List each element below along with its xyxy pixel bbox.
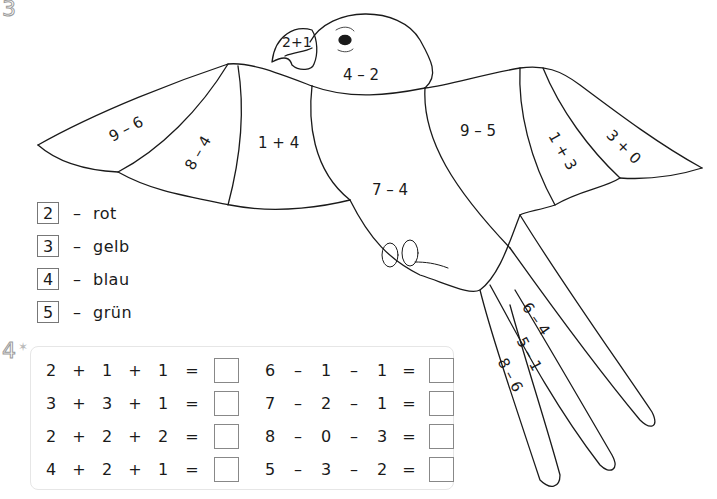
legend-color-name: grün: [93, 303, 132, 322]
operand: 3: [44, 394, 58, 413]
operand: 3: [100, 394, 114, 413]
operand: 3: [319, 460, 333, 479]
legend-number-box: 3: [37, 235, 59, 257]
operator: –: [333, 427, 375, 446]
equation-row: 5 – 3 – 2 =: [263, 456, 454, 482]
equals-sign: =: [170, 361, 214, 380]
operator: –: [277, 460, 319, 479]
operand: 1: [375, 361, 389, 380]
legend-color-name: gelb: [93, 237, 130, 256]
legend-dash: –: [73, 270, 81, 289]
operand: 1: [375, 394, 389, 413]
operator: +: [114, 361, 156, 380]
equals-sign: =: [170, 460, 214, 479]
legend-color-name: rot: [93, 204, 117, 223]
operand: 2: [156, 427, 170, 446]
region-label-beak: 2+1: [282, 34, 312, 50]
operand: 1: [100, 361, 114, 380]
operator: +: [58, 361, 100, 380]
region-label-head: 4 – 2: [343, 66, 379, 84]
operator: –: [277, 361, 319, 380]
equals-sign: =: [170, 427, 214, 446]
answer-box[interactable]: [214, 358, 239, 383]
operand: 3: [375, 427, 389, 446]
equation-row: 7 – 2 – 1 =: [263, 390, 454, 416]
answer-box[interactable]: [214, 424, 239, 449]
operand: 2: [100, 460, 114, 479]
operand: 8: [263, 427, 277, 446]
operand: 1: [156, 394, 170, 413]
equals-sign: =: [389, 394, 429, 413]
left-wing-top: [38, 64, 312, 145]
equation-row: 4 + 2 + 1 =: [44, 456, 239, 482]
feet-icon: [382, 240, 448, 268]
equals-sign: =: [389, 427, 429, 446]
operand: 0: [319, 427, 333, 446]
operator: +: [58, 427, 100, 446]
equation-row: 6 – 1 – 1 =: [263, 357, 454, 383]
operand: 7: [263, 394, 277, 413]
operand: 6: [263, 361, 277, 380]
operator: +: [114, 427, 156, 446]
operator: +: [58, 394, 100, 413]
legend-color-name: blau: [93, 270, 130, 289]
equation-row: 2 + 2 + 2 =: [44, 423, 239, 449]
legend-number-box: 4: [37, 268, 59, 290]
legend-dash: –: [73, 204, 81, 223]
region-label-left-wing-inner: 1 + 4: [258, 134, 299, 152]
operator: –: [333, 361, 375, 380]
operator: –: [333, 460, 375, 479]
answer-box[interactable]: [214, 391, 239, 416]
legend-row: 5 – grün: [37, 299, 132, 325]
operand: 2: [44, 427, 58, 446]
operand: 1: [156, 361, 170, 380]
answer-box[interactable]: [429, 358, 454, 383]
operand: 2: [375, 460, 389, 479]
equation-row: 8 – 0 – 3 =: [263, 423, 454, 449]
legend-row: 2 – rot: [37, 200, 117, 226]
operand: 5: [263, 460, 277, 479]
operand: 1: [156, 460, 170, 479]
legend-dash: –: [73, 303, 81, 322]
legend-number-box: 2: [37, 202, 59, 224]
body-outline: [350, 200, 520, 291]
equals-sign: =: [389, 460, 429, 479]
operator: –: [277, 427, 319, 446]
answer-box[interactable]: [429, 391, 454, 416]
operator: +: [114, 460, 156, 479]
region-label-right-wing-inner: 9 – 5: [460, 122, 496, 140]
operator: –: [333, 394, 375, 413]
equals-sign: =: [170, 394, 214, 413]
equals-sign: =: [389, 361, 429, 380]
operand: 1: [319, 361, 333, 380]
operator: +: [114, 394, 156, 413]
legend-dash: –: [73, 237, 81, 256]
operand: 2: [100, 427, 114, 446]
equation-row: 3 + 3 + 1 =: [44, 390, 239, 416]
eye-icon: [339, 36, 351, 45]
answer-box[interactable]: [429, 424, 454, 449]
operand: 2: [319, 394, 333, 413]
legend-row: 4 – blau: [37, 266, 130, 292]
answer-box[interactable]: [429, 457, 454, 482]
legend-row: 3 – gelb: [37, 233, 130, 259]
operand: 2: [44, 361, 58, 380]
operand: 4: [44, 460, 58, 479]
operator: –: [277, 394, 319, 413]
answer-box[interactable]: [214, 457, 239, 482]
equation-row: 2 + 1 + 1 =: [44, 357, 239, 383]
region-label-body: 7 – 4: [372, 181, 408, 199]
legend-number-box: 5: [37, 301, 59, 323]
operator: +: [58, 460, 100, 479]
